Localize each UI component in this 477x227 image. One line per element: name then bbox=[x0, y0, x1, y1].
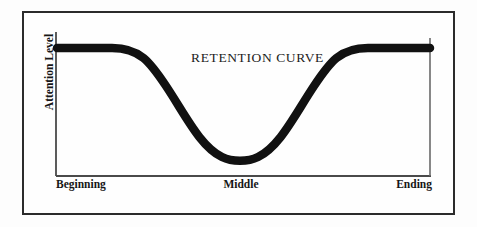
x-tick-label-beginning: Beginning bbox=[56, 178, 106, 190]
plot-area bbox=[0, 0, 477, 227]
x-tick-label-middle: Middle bbox=[196, 178, 286, 190]
figure-page: RETENTION CURVE Attention Level Beginnin… bbox=[0, 0, 477, 227]
chart-title: RETENTION CURVE bbox=[160, 50, 355, 66]
x-tick-label-ending: Ending bbox=[370, 178, 432, 190]
y-axis-label: Attention Level bbox=[43, 22, 55, 122]
retention-curve-chart bbox=[0, 0, 477, 227]
